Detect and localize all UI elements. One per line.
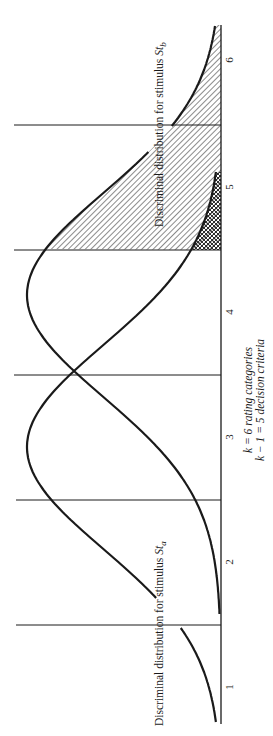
category-label-5: 5 xyxy=(223,184,235,190)
category-label-1: 1 xyxy=(223,684,235,690)
axis-annotation: k = 6 rating categories k − 1 = 5 decisi… xyxy=(242,339,266,461)
category-label-4: 4 xyxy=(223,309,235,315)
st-a-label: Discriminal distribution for stimulus St… xyxy=(153,541,168,726)
signal-detection-figure: 6 5 4 3 2 1 k = 6 rating categories k − … xyxy=(0,0,273,736)
category-label-3: 3 xyxy=(223,434,235,440)
st-b-hit-region xyxy=(46,25,221,250)
category-label-6: 6 xyxy=(223,57,235,63)
category-labels: 6 5 4 3 2 1 xyxy=(223,57,235,690)
category-label-2: 2 xyxy=(223,559,235,565)
annotation-criteria: k − 1 = 5 decision criteria xyxy=(254,339,266,461)
st-a-distribution-curve xyxy=(27,172,216,722)
